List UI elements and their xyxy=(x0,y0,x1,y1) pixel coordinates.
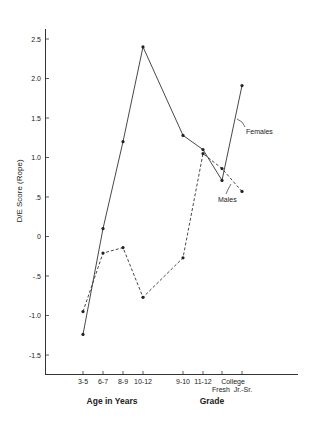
x-tick-label: 6-7 xyxy=(98,378,108,385)
data-point-males xyxy=(81,310,84,313)
axes: 2.52.01.51.0.50-.5-1.0-1.5 3-56-78-910-1… xyxy=(29,29,298,385)
y-axis-label: D/E Score (Rope) xyxy=(15,159,24,222)
data-point-males xyxy=(201,152,204,155)
data-point-females xyxy=(201,148,204,151)
males-leader-line xyxy=(226,184,231,194)
data-point-females xyxy=(220,179,223,182)
y-tick-label: 2.5 xyxy=(31,36,41,43)
females-annotation: Females xyxy=(246,128,273,135)
college-jr-sr-label: Jr.-Sr. xyxy=(234,386,252,393)
x-group-label-age: Age in Years xyxy=(87,396,138,406)
y-tick-label: .5 xyxy=(35,194,41,201)
y-tick-label: -1.5 xyxy=(29,352,41,359)
x-ticks: 3-56-78-910-129-1011-12 xyxy=(78,371,242,385)
series-line-females xyxy=(83,47,242,335)
data-point-females xyxy=(181,134,184,137)
x-tick-label: 9-10 xyxy=(176,378,190,385)
x-tick-label: 10-12 xyxy=(134,378,152,385)
females-leader-line xyxy=(237,119,245,127)
x-tick-label: 3-5 xyxy=(78,378,88,385)
data-point-females xyxy=(121,140,124,143)
y-tick-label: 0 xyxy=(37,233,41,240)
college-fresh-label: Fresh xyxy=(212,386,230,393)
data-point-males xyxy=(141,296,144,299)
college-label: College xyxy=(221,378,245,386)
data-point-females xyxy=(141,45,144,48)
y-tick-label: 1.0 xyxy=(31,154,41,161)
data-point-males xyxy=(101,251,104,254)
data-point-females xyxy=(240,84,243,87)
line-chart: 2.52.01.51.0.50-.5-1.0-1.5 3-56-78-910-1… xyxy=(0,0,312,424)
data-point-males xyxy=(240,190,243,193)
series-line-males xyxy=(83,154,242,312)
x-tick-label: 11-12 xyxy=(194,378,211,385)
y-tick-label: -1.0 xyxy=(29,312,41,319)
data-point-females xyxy=(81,333,84,336)
data-point-males xyxy=(181,256,184,259)
x-tick-label: 8-9 xyxy=(118,378,128,385)
data-point-males xyxy=(220,167,223,170)
males-annotation: Males xyxy=(218,196,237,203)
series-group xyxy=(81,45,243,336)
data-point-females xyxy=(101,227,104,230)
y-tick-label: 1.5 xyxy=(31,115,41,122)
data-point-males xyxy=(121,246,124,249)
y-tick-label: -.5 xyxy=(33,273,41,280)
y-tick-label: 2.0 xyxy=(31,75,41,82)
x-group-label-grade: Grade xyxy=(200,396,225,406)
